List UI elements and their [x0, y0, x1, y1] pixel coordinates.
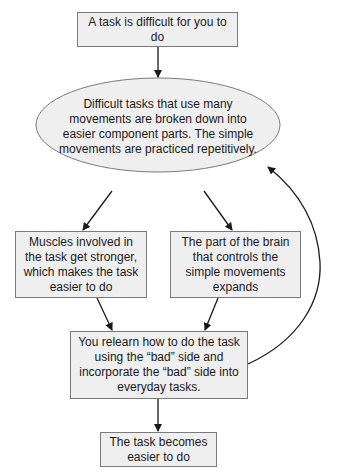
node-breakdown-movements-label: Difficult tasks that use many movements …: [56, 97, 260, 157]
node-task-difficult: A task is difficult for you to do: [77, 12, 238, 47]
arrow-muscles-to-relearn: [97, 298, 112, 330]
node-task-easier: The task becomes easier to do: [100, 432, 217, 467]
node-breakdown-movements: Difficult tasks that use many movements …: [50, 88, 266, 166]
arrow-brain-to-relearn: [205, 298, 218, 330]
flowchart: A task is difficult for you to do Diffic…: [0, 0, 337, 475]
node-brain-expands-label: The part of the brain that controls the …: [175, 235, 296, 295]
node-muscles-stronger-label: Muscles involved in the task get stronge…: [20, 235, 142, 295]
node-task-difficult-label: A task is difficult for you to do: [82, 15, 233, 45]
node-brain-expands: The part of the brain that controls the …: [170, 231, 301, 298]
node-relearn-task-label: You relearn how to do the task using the…: [77, 335, 241, 395]
node-relearn-task: You relearn how to do the task using the…: [70, 331, 248, 399]
arrow-breakdown-to-muscles: [83, 191, 112, 230]
node-task-easier-label: The task becomes easier to do: [105, 435, 212, 465]
node-muscles-stronger: Muscles involved in the task get stronge…: [15, 231, 147, 298]
arrow-breakdown-to-brain: [204, 191, 232, 230]
